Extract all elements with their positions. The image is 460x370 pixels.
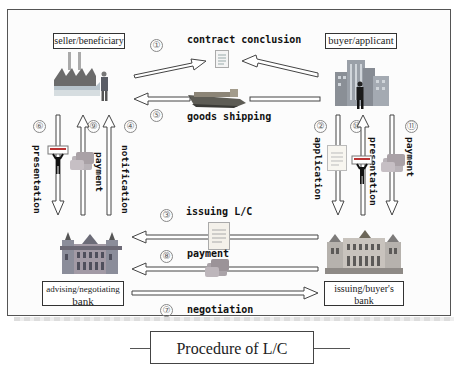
title-line-right <box>314 348 350 349</box>
step-1-label: contract conclusion <box>187 34 301 45</box>
document-icon <box>215 50 229 68</box>
step-6-number: ⑥ <box>33 120 46 133</box>
step-2-number: ② <box>314 120 327 133</box>
person-holding-sign-icon <box>351 155 373 185</box>
arrow-negotiation <box>130 286 320 300</box>
issuing-bank-label-1: issuing/buyer's <box>325 283 403 295</box>
office-buildings-with-businessman-icon <box>333 58 393 110</box>
bank-building-icon <box>325 228 403 276</box>
step-6-label: presentation <box>32 145 43 214</box>
money-stack-icon <box>381 152 407 174</box>
step-5-label: goods shipping <box>187 111 271 122</box>
arrow-seller-to-contract <box>132 55 208 80</box>
arrow-buyer-to-contract <box>240 53 320 81</box>
document-icon <box>208 222 230 250</box>
money-stack-icon <box>70 150 96 172</box>
step-4-label: notification <box>120 145 131 214</box>
buyer-box: buyer/applicant <box>325 33 397 49</box>
step-3-number: ③ <box>160 209 173 222</box>
factory-with-businessman-icon <box>52 50 112 102</box>
step-1-number: ① <box>150 39 163 52</box>
diagram-title-text: Procedure of L/C <box>176 340 287 357</box>
advising-bank-box: advising/negotiating bank <box>42 281 124 306</box>
diagram-title: Procedure of L/C <box>150 331 314 364</box>
person-holding-sign-icon <box>47 145 69 175</box>
advising-bank-label-2: bank <box>43 295 123 307</box>
step-4-number: ④ <box>124 120 137 133</box>
title-line-left <box>130 348 150 349</box>
seller-box: seller/beneficiary <box>53 33 125 49</box>
frame-shadow <box>14 317 454 321</box>
document-icon <box>327 145 347 171</box>
issuing-bank-box: issuing/buyer's bank <box>324 281 404 306</box>
seller-label: seller/beneficiary <box>54 35 123 46</box>
issuing-bank-label-2: bank <box>325 295 403 307</box>
step-7-number: ⑦ <box>160 304 173 317</box>
step-7-label: negotiation <box>187 304 253 315</box>
step-3-label: issuing L/C <box>186 206 252 217</box>
step-11-number: ⑪ <box>405 120 418 133</box>
money-stack-icon <box>205 258 231 278</box>
advising-bank-label-1: advising/negotiating <box>43 283 123 295</box>
buyer-label: buyer/applicant <box>328 35 393 46</box>
bank-building-icon <box>60 230 122 276</box>
step-5-number: ⑤ <box>150 109 163 122</box>
arrow-shipping-to-seller <box>132 92 322 106</box>
step-2-label: application <box>313 137 324 200</box>
